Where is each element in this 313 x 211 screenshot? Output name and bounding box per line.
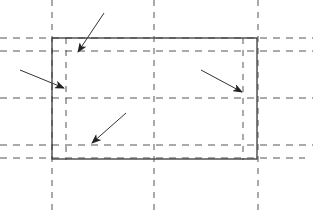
arrows [20,13,242,143]
arrow-bottom-left-icon [92,113,126,143]
dashed-horizontal-lines [0,38,313,158]
arrow-left-icon [20,70,64,88]
diagram-canvas [0,0,313,211]
dashed-vertical-lines [52,0,258,211]
grid-diagram [0,0,313,211]
arrow-top-left-icon [78,13,104,52]
arrow-right-icon [201,70,242,92]
